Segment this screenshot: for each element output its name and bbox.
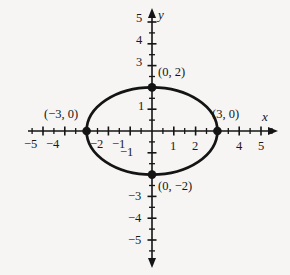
- point-label-bottom: (0, −2): [158, 180, 192, 193]
- y-tick-label-3: 3: [136, 56, 142, 69]
- y-tick-label-1: 1: [138, 100, 144, 113]
- x-tick-label--4: −4: [46, 138, 59, 151]
- x-tick-label-1: 1: [170, 140, 176, 153]
- vertex-dot-top: [148, 83, 157, 92]
- ellipse-graph-figure: x y −5 −4 −2 −1 1 2 4 5 5 4 3 1 −1 −3 −4…: [0, 0, 290, 275]
- y-tick-label--3: −3: [128, 190, 141, 203]
- vertex-dot-bottom: [148, 170, 157, 179]
- y-tick-label--4: −4: [128, 212, 141, 225]
- point-label-top: (0, 2): [158, 66, 185, 79]
- x-tick-label--2: −2: [90, 138, 103, 151]
- y-tick-label--5: −5: [128, 234, 141, 247]
- y-axis-label: y: [158, 8, 164, 21]
- y-axis-arrow-down-icon: [148, 258, 156, 268]
- point-label-right: (3, 0): [212, 108, 239, 121]
- y-tick-label-5: 5: [136, 12, 142, 25]
- x-tick-label--5: −5: [24, 138, 37, 151]
- y-axis-arrow-icon: [148, 8, 156, 18]
- point-label-left: (−3, 0): [44, 108, 78, 121]
- x-tick-label-5: 5: [258, 140, 264, 153]
- vertex-dot-right: [213, 127, 222, 136]
- y-tick-label--1: −1: [120, 146, 133, 159]
- coordinate-plane-svg: [0, 0, 290, 275]
- x-tick-label-4: 4: [236, 140, 242, 153]
- x-axis-arrow-icon: [268, 127, 278, 135]
- x-axis-label: x: [262, 110, 268, 123]
- y-tick-label-4: 4: [136, 34, 142, 47]
- vertex-dot-left: [82, 127, 91, 136]
- x-tick-label-2: 2: [192, 140, 198, 153]
